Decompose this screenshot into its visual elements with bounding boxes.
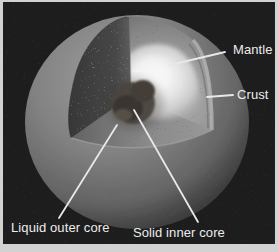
earth-cutaway-graphic: [0, 0, 278, 252]
solid-inner-core-label: Solid inner core: [133, 226, 225, 240]
mantle-label: Mantle: [233, 43, 273, 57]
earth-interior-figure: Mantle Crust Liquid outer core Solid inn…: [0, 0, 278, 252]
crust-label: Crust: [237, 88, 269, 102]
film-grain-overlay: [3, 2, 275, 244]
liquid-outer-core-label: Liquid outer core: [11, 221, 110, 235]
